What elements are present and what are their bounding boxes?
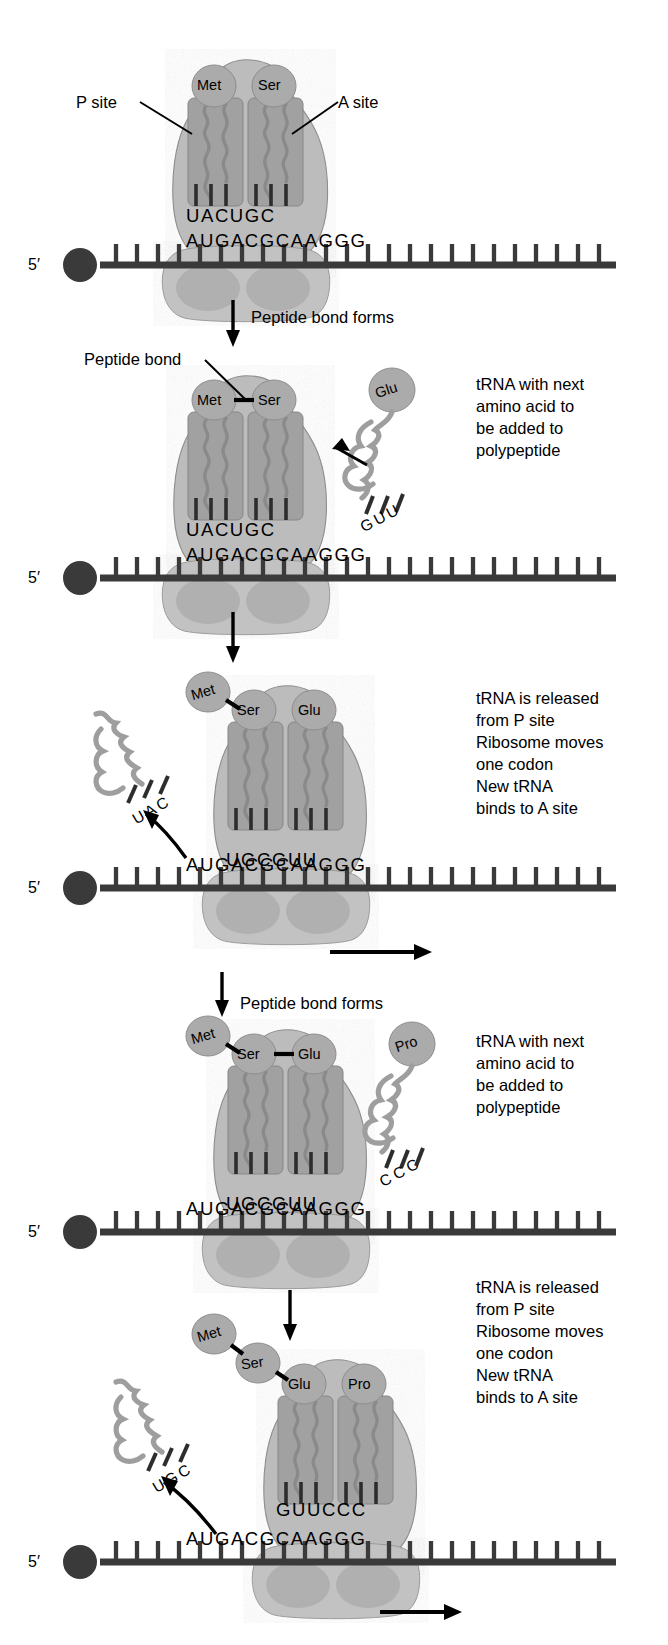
step-label-peptide-bond-2: Peptide bond forms — [240, 993, 383, 1014]
amino-acid-met-p1: Met — [197, 76, 221, 95]
five-prime-p3: 5′ — [28, 878, 40, 899]
codon-row-p4: AUGACGCAAGGG — [186, 1197, 367, 1221]
anticodon-row-p5: GUUCCC — [276, 1498, 367, 1522]
amino-acid-met-p2: Met — [197, 391, 221, 410]
anticodon-row-p1: UACUGC — [186, 204, 276, 228]
step-arrow-4 — [283, 1290, 297, 1341]
codon-row-p2: AUGACGCAAGGG — [186, 543, 367, 567]
anticodon-row-p2: UACUGC — [186, 518, 276, 542]
five-prime-p1: 5′ — [28, 255, 40, 276]
p-site-label: P site — [76, 92, 117, 113]
amino-acid-ser-p5: Ser — [240, 1353, 265, 1375]
amino-acid-ser-p2: Ser — [258, 391, 281, 410]
a-site-label: A site — [338, 92, 378, 113]
amino-acid-pro-p5: Pro — [348, 1375, 371, 1394]
released-trna-uac — [96, 713, 186, 858]
note-released-2: tRNA is released from P site Ribosome mo… — [476, 1277, 603, 1409]
five-prime-p4: 5′ — [28, 1222, 40, 1243]
released-trna-ugc — [116, 1381, 216, 1534]
step-label-peptide-bond-1: Peptide bond forms — [251, 307, 394, 328]
note-trna-next-2: tRNA with next amino acid to be added to… — [476, 1031, 584, 1119]
amino-acid-ser-p4: Ser — [237, 1045, 260, 1064]
amino-acid-ser-p3: Ser — [237, 701, 260, 720]
five-prime-p2: 5′ — [28, 568, 40, 589]
amino-acid-glu-p5: Glu — [288, 1375, 311, 1394]
codon-row-p1: AUGACGCAAGGG — [186, 229, 367, 253]
figure-canvas: P site A site Met Ser UACUGC AUGACGCAAGG… — [0, 0, 668, 1645]
amino-acid-ser-p1: Ser — [258, 76, 281, 95]
step-arrow-3 — [215, 972, 229, 1017]
note-trna-next-1: tRNA with next amino acid to be added to… — [476, 374, 584, 462]
note-released-1: tRNA is released from P site Ribosome mo… — [476, 688, 603, 820]
amino-acid-glu-p3: Glu — [298, 701, 321, 720]
codon-row-p3: AUGACGCAAGGG — [186, 853, 367, 877]
codon-row-p5: AUGACGCAAGGG — [186, 1527, 367, 1551]
peptide-bond-callout-label: Peptide bond — [84, 349, 181, 370]
amino-acid-glu-p4: Glu — [298, 1045, 321, 1064]
ribosome-move-arrow-1 — [330, 944, 432, 960]
five-prime-p5: 5′ — [28, 1552, 40, 1573]
